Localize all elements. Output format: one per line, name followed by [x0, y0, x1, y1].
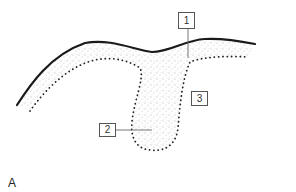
epithelium-diagram: 1 2 3 A	[0, 0, 296, 192]
panel-letter: A	[8, 176, 16, 190]
label-1: 1	[178, 12, 195, 29]
label-3: 3	[191, 91, 208, 106]
epithelial-layer	[17, 39, 255, 150]
label-2: 2	[99, 123, 116, 137]
diagram-canvas	[0, 0, 296, 192]
